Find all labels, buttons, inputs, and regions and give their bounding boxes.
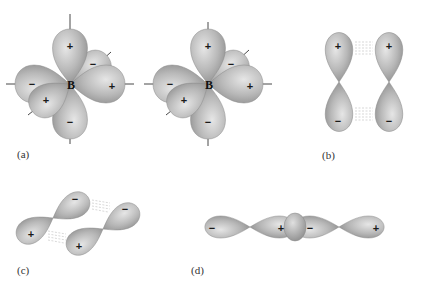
sign-left: − (167, 78, 173, 90)
sign-right-lower: + (76, 240, 82, 252)
panel-b-pi-overlap: + − + − (325, 33, 403, 132)
sign-left-upper: − (72, 193, 78, 205)
boron-atom-label: B (67, 78, 75, 92)
orbital-diagram-figure: + − − + − + B + − − (0, 0, 423, 291)
sign-top: + (205, 40, 211, 52)
overlap-region (284, 213, 306, 241)
sign-left-lower: + (28, 228, 34, 240)
sign-left: − (29, 78, 35, 90)
overlap-dashes-top (355, 42, 373, 54)
sign-right-upper: − (122, 203, 128, 215)
sign-front-lower: + (43, 94, 49, 106)
sign-bottom: − (205, 116, 211, 128)
sign-top: + (67, 40, 73, 52)
sign-center-left: + (278, 222, 284, 234)
overlap-dashes-lower (48, 231, 66, 243)
sign-right: + (109, 80, 115, 92)
panel-label-b: (b) (322, 149, 335, 162)
panel-d-sigma-overlap: − + − + (205, 213, 384, 241)
panel-c-tilted-pi-overlap: + − + − (11, 187, 144, 260)
sign-back-upper: − (228, 58, 234, 70)
sign-back-upper: − (90, 58, 96, 70)
panel-a-left-orbital-set: + − − + − + B (6, 14, 134, 144)
sign-far-left: − (209, 222, 215, 234)
lobe-right-upper (97, 198, 145, 240)
sign-center-right: − (307, 222, 313, 234)
sign-right-top: + (386, 40, 392, 52)
sign-right: + (247, 80, 253, 92)
sign-bottom: − (67, 116, 73, 128)
panel-label-d: (d) (191, 264, 204, 277)
boron-atom-label: B (205, 78, 213, 92)
lobe-left-upper (47, 187, 95, 229)
panel-label-c: (c) (17, 264, 30, 277)
sign-far-right: + (373, 222, 379, 234)
panel-label-a: (a) (17, 148, 30, 161)
overlap-dashes-bottom (355, 108, 373, 120)
sign-front-lower: + (181, 94, 187, 106)
sign-right-bottom: − (386, 115, 392, 127)
overlap-dashes-upper (92, 200, 110, 212)
sign-left-bottom: − (335, 115, 341, 127)
panel-a-right-orbital-set: + − − + − + B (144, 22, 272, 146)
sign-left-top: + (335, 40, 341, 52)
lobe-left-lower (11, 207, 59, 249)
lobe-right-lower (61, 218, 109, 260)
